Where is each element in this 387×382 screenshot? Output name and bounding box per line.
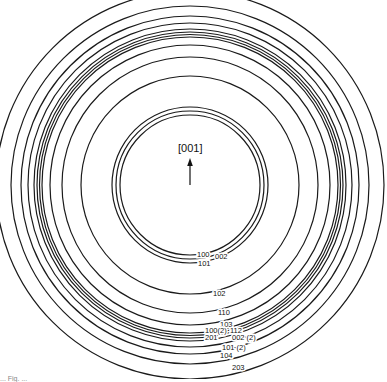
direction-label-001: [001] bbox=[178, 142, 202, 154]
ring-label: 101 bbox=[198, 259, 211, 268]
ring-label: 201 bbox=[205, 333, 218, 342]
ring-label: 102 bbox=[213, 289, 226, 298]
ring-label: 110 bbox=[218, 308, 230, 317]
ring-label: 100 bbox=[197, 250, 210, 259]
diffraction-rings bbox=[0, 0, 384, 379]
ring-label: 104 bbox=[220, 351, 233, 360]
ring-label: 002 (2) bbox=[232, 333, 256, 342]
ring-label: 203 bbox=[232, 363, 245, 372]
caption-fragment: ... Fig. ... bbox=[0, 375, 27, 382]
ring-label: 002 bbox=[215, 252, 228, 261]
arrow-up-icon bbox=[187, 158, 193, 185]
